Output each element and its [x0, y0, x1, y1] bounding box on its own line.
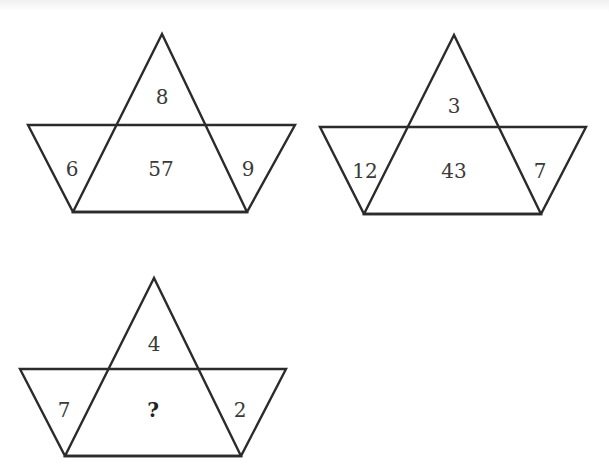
figure-2-triangle	[364, 35, 541, 214]
figure-1-center-value: 57	[148, 157, 173, 181]
figure-3-triangle	[65, 278, 241, 456]
figure-1-top-value: 8	[156, 85, 169, 109]
figure-3-top-value: 4	[148, 332, 161, 356]
number-puzzle-diagram: 8 6 57 9 3 12 43 7 4 7 ? 2	[0, 0, 609, 471]
figure-2-center-value: 43	[441, 159, 466, 183]
figure-2-top-value: 3	[448, 94, 461, 118]
figure-2-right-value: 7	[534, 159, 547, 183]
figure-2: 3 12 43 7	[320, 35, 586, 214]
figure-1-triangle	[73, 34, 247, 212]
figure-3-unknown-value: ?	[147, 398, 159, 422]
figure-1: 8 6 57 9	[28, 34, 295, 212]
figure-3-right-value: 2	[234, 398, 247, 422]
figure-3-left-value: 7	[58, 398, 71, 422]
figure-3: 4 7 ? 2	[20, 278, 286, 456]
figure-2-left-value: 12	[352, 159, 377, 183]
figure-1-right-value: 9	[242, 157, 255, 181]
figure-1-left-value: 6	[66, 157, 79, 181]
